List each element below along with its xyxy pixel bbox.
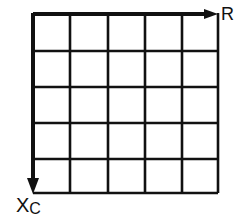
grid-lines <box>33 13 218 193</box>
xc-sub: C <box>29 200 41 217</box>
xc-main: X <box>16 194 29 216</box>
r-axis-arrow <box>33 9 218 19</box>
xc-axis-label: XC <box>16 194 41 218</box>
xc-axis-arrow <box>27 13 39 194</box>
grid-diagram <box>0 0 241 224</box>
r-axis-label: R <box>221 4 234 25</box>
